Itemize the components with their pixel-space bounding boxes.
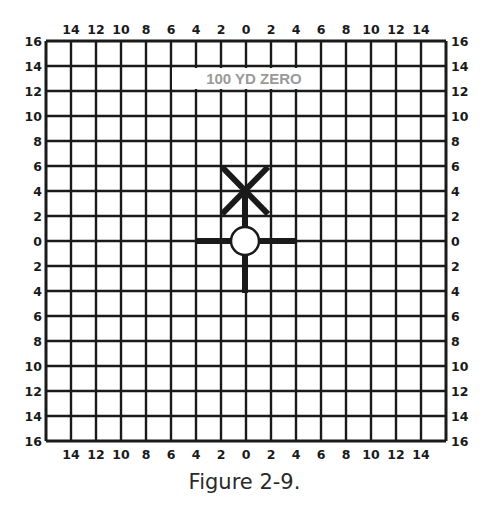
right-axis-label: 8 [451,134,460,149]
right-axis-label: 2 [451,209,460,224]
top-axis-label: 4 [292,22,301,37]
left-axis-label: 12 [25,84,42,99]
bottom-axis-label: 4 [192,447,201,462]
left-axis-label: 14 [25,409,43,424]
right-axis-label: 8 [451,334,460,349]
left-axis-label: 16 [25,34,43,49]
top-axis-label: 8 [142,22,151,37]
left-axis-label: 16 [25,434,43,449]
left-axis-label: 8 [33,134,42,149]
left-axis-label: 2 [33,209,42,224]
aim-point-circle [231,227,259,255]
right-axis-label: 4 [451,184,460,199]
bottom-axis-label: 0 [242,447,251,462]
top-axis-label: 12 [387,22,404,37]
top-axis-label: 2 [267,22,276,37]
figure-caption: Figure 2-9. [0,470,489,494]
bottom-axis-label: 2 [267,447,276,462]
bottom-axis-label: 8 [142,447,151,462]
zero-title: 100 YD ZERO [206,70,302,87]
right-axis-label: 2 [451,259,460,274]
left-axis-label: 8 [33,334,42,349]
top-axis-label: 8 [342,22,351,37]
left-axis-label: 6 [33,309,42,324]
top-axis-label: 2 [217,22,226,37]
bottom-axis-label: 10 [112,447,130,462]
right-axis-label: 14 [451,59,469,74]
left-axis-label: 4 [33,184,42,199]
right-axis-label: 12 [451,384,468,399]
left-axis-label: 14 [25,59,43,74]
right-axis-label: 10 [451,109,469,124]
left-axis-label: 4 [33,284,42,299]
bottom-axis-label: 6 [167,447,176,462]
bottom-axis-label: 4 [292,447,301,462]
bottom-axis-label: 2 [217,447,226,462]
right-axis-label: 4 [451,284,460,299]
top-axis-label: 6 [167,22,176,37]
left-axis-label: 10 [25,359,43,374]
top-axis-label: 0 [242,22,251,37]
left-axis-label: 2 [33,259,42,274]
bottom-axis-label: 14 [62,447,80,462]
left-axis-label: 10 [25,109,43,124]
bottom-axis-label: 12 [87,447,104,462]
zero-target-diagram: 100 YD ZERO 1412108642024681012141412108… [0,0,489,470]
left-axis-label: 6 [33,159,42,174]
top-axis-label: 10 [112,22,130,37]
bottom-axis-label: 10 [362,447,380,462]
right-axis-label: 0 [451,234,460,249]
top-axis-label: 14 [62,22,80,37]
right-axis-label: 16 [451,434,469,449]
top-axis-label: 6 [317,22,326,37]
bottom-axis-label: 6 [317,447,326,462]
top-axis-label: 10 [362,22,380,37]
top-axis-label: 12 [87,22,104,37]
right-axis-label: 6 [451,159,460,174]
bottom-axis-label: 8 [342,447,351,462]
bottom-axis-label: 14 [412,447,430,462]
top-axis-label: 14 [412,22,430,37]
right-axis-label: 10 [451,359,469,374]
left-axis-label: 0 [33,234,42,249]
right-axis-label: 6 [451,309,460,324]
bottom-axis-label: 12 [387,447,404,462]
right-axis-label: 16 [451,34,469,49]
right-axis-label: 12 [451,84,468,99]
top-axis-label: 4 [192,22,201,37]
right-axis-label: 14 [451,409,469,424]
left-axis-label: 12 [25,384,42,399]
